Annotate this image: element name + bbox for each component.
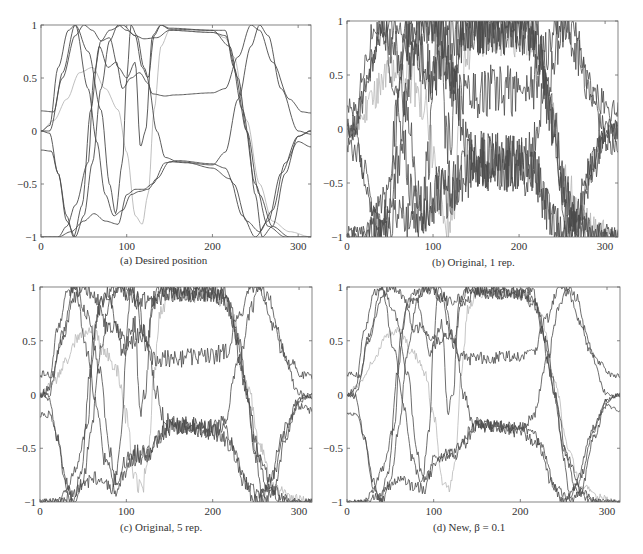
y-tick-label: 1 xyxy=(31,281,37,293)
panel-d: −1−0.500.510100200300 (d) New, β = 0.1 xyxy=(320,277,643,554)
y-tick-label: −1 xyxy=(24,496,36,508)
y-tick-label: 0.5 xyxy=(329,335,343,347)
y-tick-label: 1 xyxy=(338,15,344,27)
chart-c: −1−0.500.510100200300 xyxy=(0,277,320,554)
x-tick-label: 100 xyxy=(425,240,442,252)
x-tick-label: 0 xyxy=(344,240,350,252)
caption-a: (a) Desired position xyxy=(120,254,207,266)
series-line xyxy=(41,142,311,237)
caption-b: (b) Original, 1 rep. xyxy=(432,256,515,268)
plot-lines xyxy=(347,287,620,502)
y-tick-label: −0.5 xyxy=(16,442,36,454)
y-tick-label: −1 xyxy=(331,496,343,508)
y-tick-label: 0 xyxy=(338,389,344,401)
x-tick-label: 0 xyxy=(38,240,44,252)
x-tick-label: 0 xyxy=(344,505,350,517)
chart-a: −1−0.500.510100200300 xyxy=(0,0,320,277)
panel-b: −1−0.500.510100200300 (b) Original, 1 re… xyxy=(320,0,643,277)
chart-d: −1−0.500.510100200300 xyxy=(320,277,643,554)
y-tick-label: −1 xyxy=(25,231,37,243)
panel-a: −1−0.500.510100200300 (a) Desired positi… xyxy=(0,0,320,277)
caption-d: (d) New, β = 0.1 xyxy=(433,521,505,533)
series-line xyxy=(41,25,311,237)
y-tick-label: −0.5 xyxy=(323,177,343,189)
series-line xyxy=(40,287,312,502)
caption-c: (c) Original, 5 rep. xyxy=(120,521,202,533)
y-tick-label: 0.5 xyxy=(22,335,36,347)
plot-lines xyxy=(40,287,312,502)
y-tick-label: −0.5 xyxy=(323,442,343,454)
x-tick-label: 200 xyxy=(204,505,221,517)
y-tick-label: 0 xyxy=(32,125,38,137)
panel-c: −1−0.500.510100200300 (c) Original, 5 re… xyxy=(0,277,320,554)
x-tick-label: 0 xyxy=(37,505,43,517)
y-tick-label: 1 xyxy=(338,281,344,293)
y-tick-label: 0.5 xyxy=(23,72,37,84)
plot-lines xyxy=(41,25,311,237)
y-tick-label: −0.5 xyxy=(17,178,37,190)
x-tick-label: 300 xyxy=(599,505,616,517)
x-tick-label: 100 xyxy=(425,505,442,517)
x-tick-label: 300 xyxy=(291,505,308,517)
x-tick-label: 200 xyxy=(512,505,529,517)
y-tick-label: 0 xyxy=(338,123,344,135)
x-tick-label: 300 xyxy=(290,240,307,252)
y-tick-label: −1 xyxy=(331,231,343,243)
y-tick-label: 0 xyxy=(31,389,37,401)
x-tick-label: 200 xyxy=(511,240,528,252)
y-tick-label: 1 xyxy=(32,19,38,31)
plot-lines xyxy=(347,21,618,237)
x-tick-label: 100 xyxy=(118,240,135,252)
series-line xyxy=(347,287,620,502)
x-tick-label: 300 xyxy=(597,240,614,252)
y-tick-label: 0.5 xyxy=(329,69,343,81)
chart-b: −1−0.500.510100200300 xyxy=(320,0,643,277)
x-tick-label: 100 xyxy=(118,505,135,517)
x-tick-label: 200 xyxy=(204,240,221,252)
